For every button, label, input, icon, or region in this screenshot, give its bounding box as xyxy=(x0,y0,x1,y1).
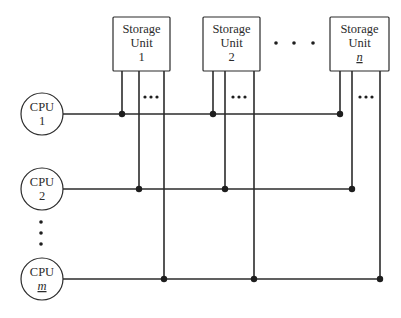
storage-unit-ellipsis xyxy=(274,41,315,45)
storage-unit-1-subtitle: Unit xyxy=(130,36,153,50)
cpu-1-id: 1 xyxy=(39,114,45,128)
cpu-1: CPU 1 xyxy=(21,93,63,135)
cpu-m-title: CPU xyxy=(30,265,54,279)
storage-unit-n-subtitle: Unit xyxy=(348,36,371,50)
storage-unit-1-lines xyxy=(122,71,164,279)
cpu-1-title: CPU xyxy=(30,100,54,114)
storage-unit-2: Storage Unit 2 xyxy=(203,17,260,71)
cpu-ellipsis xyxy=(39,220,43,246)
bus-line-ellipsis xyxy=(143,95,373,98)
storage-unit-n-title: Storage xyxy=(340,22,379,36)
interconnect-diagram: Storage Unit 1 Storage Unit 2 Storage Un… xyxy=(0,0,401,318)
storage-unit-2-lines xyxy=(213,71,254,279)
cpu-m-id: m xyxy=(37,279,46,293)
diagram-canvas: Storage Unit 1 Storage Unit 2 Storage Un… xyxy=(0,0,401,318)
cpu-2: CPU 2 xyxy=(21,168,63,210)
cpu-2-title: CPU xyxy=(30,175,54,189)
storage-unit-1-id: 1 xyxy=(138,50,144,64)
storage-unit-2-id: 2 xyxy=(228,50,234,64)
storage-unit-2-subtitle: Unit xyxy=(220,36,243,50)
storage-unit-1: Storage Unit 1 xyxy=(113,17,170,71)
storage-unit-2-title: Storage xyxy=(212,22,251,36)
storage-unit-n-id: n xyxy=(356,50,362,64)
cpu-2-id: 2 xyxy=(39,189,45,203)
junction-dots xyxy=(119,111,383,282)
storage-unit-1-title: Storage xyxy=(122,22,161,36)
storage-unit-n: Storage Unit n xyxy=(330,17,389,71)
cpu-m: CPU m xyxy=(21,258,63,300)
storage-unit-n-lines xyxy=(340,71,380,279)
